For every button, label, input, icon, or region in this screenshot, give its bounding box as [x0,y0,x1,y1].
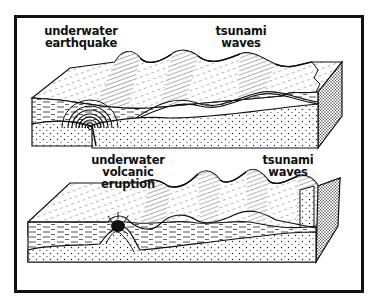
label-line: eruption [66,178,190,190]
label-tsunami-waves-bottom: tsunami waves [258,154,318,178]
label-tsunami-waves-top: tsunami waves [206,25,276,49]
label-underwater-earthquake: underwater earthquake [36,25,126,49]
label-line: waves [258,166,318,178]
earthquake-focus-icon [88,126,91,129]
label-line: earthquake [36,37,126,49]
label-line: waves [206,37,276,49]
label-underwater-volcanic-eruption: underwater volcanic eruption [66,154,190,190]
label-line: underwater volcanic [66,154,190,178]
earthquake-block-diagram [32,50,342,148]
